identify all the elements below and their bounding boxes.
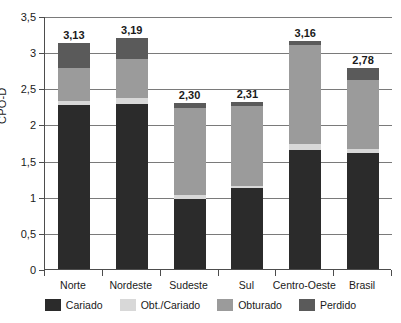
bar-stack[interactable]: 3,19 (116, 38, 148, 269)
y-tick-label: 2,5 (2, 84, 36, 95)
gridline (45, 53, 392, 54)
bar-segment-cariado (347, 153, 379, 269)
x-tick-label-brasil: Brasil (349, 280, 375, 291)
x-tick-mark (275, 270, 276, 276)
legend-label: Cariado (66, 299, 103, 311)
stacked-bar-chart: CPO-D 00,511,522,533,5 3,133,192,302,313… (0, 0, 401, 323)
x-tick-mark (391, 270, 392, 276)
gridline (45, 125, 392, 126)
legend-item-obt-cariado[interactable]: Obt./Cariado (120, 299, 201, 311)
legend-swatch (299, 299, 315, 311)
bar-segment-perdido (347, 68, 379, 80)
bar-segment-cariado (174, 199, 206, 269)
x-tick-mark (333, 270, 334, 276)
bar-segment-cariado (116, 104, 148, 269)
gridline (45, 198, 392, 199)
bar-segment-perdido (58, 43, 90, 68)
chart-legend: CariadoObt./CariadoObturadoPerdido (0, 299, 401, 311)
legend-swatch (45, 299, 61, 311)
gridline (45, 89, 392, 90)
legend-label: Obturado (238, 299, 282, 311)
bar-stack[interactable]: 2,31 (231, 102, 263, 269)
gridline (45, 17, 392, 18)
x-tick-label-norte: Norte (60, 280, 86, 291)
x-tick-mark (44, 270, 45, 276)
bar-segment-obturado (289, 45, 321, 144)
legend-item-cariado[interactable]: Cariado (45, 299, 103, 311)
bar-stack[interactable]: 2,78 (347, 68, 379, 269)
bar-segment-obturado (347, 80, 379, 149)
bar-stack[interactable]: 2,30 (174, 103, 206, 269)
bar-segment-obturado (58, 68, 90, 101)
bar-segment-cariado (58, 105, 90, 269)
bar-segment-perdido (116, 38, 148, 59)
bar-segment-obturado (231, 106, 263, 186)
bar-segment-obturado (174, 108, 206, 195)
legend-label: Perdido (320, 299, 356, 311)
gridline (45, 162, 392, 163)
x-tick-mark (160, 270, 161, 276)
x-tick-label-centro-oeste: Centro-Oeste (273, 280, 336, 291)
x-tick-label-sul: Sul (239, 280, 254, 291)
legend-swatch (120, 299, 136, 311)
bar-stack[interactable]: 3,16 (289, 41, 321, 269)
legend-item-perdido[interactable]: Perdido (299, 299, 356, 311)
plot-area: 3,133,192,302,313,162,78 (44, 17, 391, 270)
y-tick-label: 2 (2, 120, 36, 131)
y-tick-label: 0,5 (2, 229, 36, 240)
x-tick-mark (102, 270, 103, 276)
bar-total-label: 3,19 (121, 25, 142, 36)
y-tick-label: 1 (2, 193, 36, 204)
legend-swatch (217, 299, 233, 311)
y-tick-label: 0 (2, 265, 36, 276)
bar-segment-obturado (116, 59, 148, 98)
bar-stack[interactable]: 3,13 (58, 43, 90, 269)
legend-item-obturado[interactable]: Obturado (217, 299, 282, 311)
bar-segment-cariado (289, 150, 321, 269)
legend-label: Obt./Cariado (141, 299, 201, 311)
x-tick-label-sudeste: Sudeste (169, 280, 208, 291)
x-tick-label-nordeste: Nordeste (109, 280, 152, 291)
bar-total-label: 3,16 (295, 28, 316, 39)
bar-total-label: 2,30 (179, 90, 200, 101)
bar-total-label: 2,31 (237, 89, 258, 100)
y-tick-label: 3 (2, 48, 36, 59)
bar-total-label: 3,13 (63, 30, 84, 41)
y-tick-label: 3,5 (2, 12, 36, 23)
bar-segment-cariado (231, 188, 263, 269)
y-tick-label: 1,5 (2, 157, 36, 168)
x-tick-mark (218, 270, 219, 276)
gridline (45, 234, 392, 235)
bar-total-label: 2,78 (352, 55, 373, 66)
